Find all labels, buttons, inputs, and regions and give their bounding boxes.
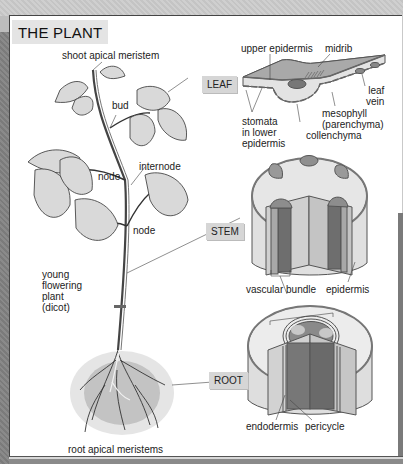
label-stomata: stomata in lower epidermis [242,116,285,149]
label-midrib: midrib [325,43,352,54]
tag-stem: STEM [206,223,244,240]
label-bud: bud [112,100,129,111]
label-vascular-bundle: vascular bundle [246,284,316,295]
tag-leaf: LEAF [202,76,237,93]
label-epidermis: epidermis [326,284,369,295]
label-young-flowering-plant: young flowering plant (dicot) [42,269,82,313]
label-root-apical-meristems: root apical meristems [68,444,163,455]
label-node-lower: node [133,225,155,236]
label-pericycle: pericycle [305,421,344,432]
label-shoot-apical-meristem: shoot apical meristem [62,50,159,61]
label-internode: internode [139,161,181,172]
label-leaf-vein: leaf vein [366,85,384,107]
tag-root: ROOT [209,372,248,389]
label-node-upper: node [98,171,120,182]
root-system [70,350,174,435]
label-endodermis: endodermis [246,421,298,432]
label-collenchyma: collenchyma [306,130,362,141]
leaf-cross-section [243,55,385,102]
plant-illustration [0,0,403,464]
label-mesophyll: mesophyll (parenchyma) [322,108,384,130]
root-cross-section [248,306,372,415]
stem-cross-section [252,156,367,276]
leaves [28,66,188,240]
label-upper-epidermis: upper epidermis [241,43,313,54]
